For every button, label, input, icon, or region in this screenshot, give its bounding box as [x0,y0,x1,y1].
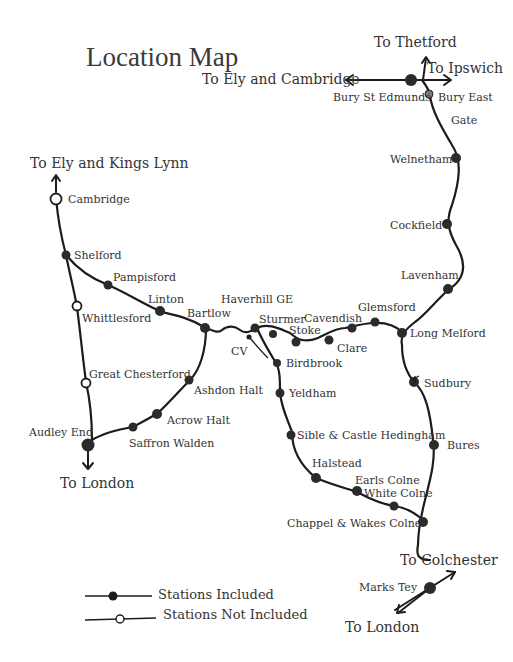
legend-included-marker [109,592,118,601]
label-to-colchester: To Colchester [400,552,498,568]
label-clare: Clare [337,342,367,355]
label-yeldham: Yeldham [288,387,337,400]
label-whittlesford: Whittlesford [82,312,151,325]
label-to-ely-kings-lynn: To Ely and Kings Lynn [30,155,189,171]
station-sible-castle-hedingham[interactable] [287,431,296,440]
station-long-melford[interactable] [397,328,407,338]
station-bury-st-edmunds[interactable] [405,74,417,86]
label-bures: Bures [447,439,480,452]
label-cv: CV [231,345,248,358]
station-stoke[interactable] [292,338,301,347]
station-clare[interactable] [325,336,334,345]
label-to-london-east: To London [345,619,419,635]
station-marks-tey[interactable] [424,582,436,594]
label-bury-st-edmunds: Bury St Edmunds [333,91,431,104]
label-sudbury: Sudbury [424,377,472,390]
label-audley-end: Audley End [28,426,93,439]
station-acrow-halt[interactable] [152,409,162,419]
label-marks-tey: Marks Tey [359,581,418,594]
station-yeldham[interactable] [276,389,285,398]
station-glemsford[interactable] [371,318,380,327]
station-halstead[interactable] [311,473,321,483]
station-cockfield[interactable] [442,219,452,229]
label-lavenham: Lavenham [401,269,459,282]
label-ashdon-halt: Ashdon Halt [193,384,264,397]
label-haverhill-ge: Haverhill GE [221,293,293,306]
label-cockfield: Cockfield [390,219,442,232]
north-arrow-cambridge [52,175,60,192]
station-shelford[interactable] [62,251,71,260]
label-bury-east-gate: Gate [451,114,477,127]
station-birdbrook[interactable] [273,359,281,367]
label-long-melford: Long Melford [410,327,486,340]
station-white-colne[interactable] [390,502,399,511]
label-to-thetford: To Thetford [374,34,457,50]
label-white-colne: White Colne [364,487,433,500]
station-whittlesford[interactable] [73,302,82,311]
label-acrow-halt: Acrow Halt [166,414,231,427]
label-to-ely-cambridge: To Ely and Cambridge [202,71,360,87]
station-cambridge[interactable] [51,194,62,205]
label-great-chesterford: Great Chesterford [89,368,191,381]
location-map: Location Map [0,0,513,662]
station-earls-colne[interactable] [352,486,362,496]
label-welnetham: Welnetham [390,153,453,166]
station-lavenham[interactable] [443,284,453,294]
station-bartlow[interactable] [200,323,210,333]
station-audley-end[interactable] [82,439,95,452]
station-pampisford[interactable] [104,281,113,290]
label-birdbrook: Birdbrook [286,357,342,370]
label-to-london-west: To London [60,475,134,491]
label-bury-east: Bury East [438,91,493,104]
label-pampisford: Pampisford [113,271,176,284]
label-glemsford: Glemsford [358,301,416,314]
label-chappel-wakes-colne: Chappel & Wakes Colne [287,517,421,530]
label-saffron-walden: Saffron Walden [129,437,214,450]
label-halstead: Halstead [312,457,362,470]
legend: Stations Included Stations Not Included [85,587,307,623]
label-sturmer: Sturmer [259,313,306,326]
legend-not-included-label: Stations Not Included [163,607,307,622]
legend-included-label: Stations Included [158,587,274,602]
station-linton[interactable] [155,306,165,316]
label-to-ipswich: To Ipswich [427,60,503,76]
map-title: Location Map [86,42,238,72]
label-bartlow: Bartlow [187,307,231,320]
label-cambridge: Cambridge [68,193,130,206]
stations-not-included [51,194,91,388]
label-shelford: Shelford [74,249,122,262]
label-earls-colne: Earls Colne [355,474,420,487]
label-sible-castle-hedingham: Sible & Castle Hedingham [297,429,446,442]
stations-included [62,74,462,594]
legend-not-included-marker [116,615,124,623]
label-linton: Linton [148,293,184,306]
station-sturmer[interactable] [269,330,277,338]
station-saffron-walden[interactable] [129,423,138,432]
